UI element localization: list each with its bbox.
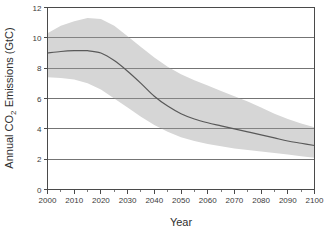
x-tick-label-2000: 2000: [39, 196, 57, 205]
x-tick-label-2030: 2030: [119, 196, 137, 205]
y-tick-label-6: 6: [37, 95, 42, 104]
y-axis-title-suffix: Emissions (GtC): [3, 27, 15, 110]
y-tick-label-0: 0: [37, 186, 42, 195]
y-tick-label-10: 10: [33, 34, 42, 43]
y-tick-label-12: 12: [33, 4, 42, 13]
x-tick-label-2070: 2070: [226, 196, 244, 205]
x-tick-label-2040: 2040: [145, 196, 163, 205]
x-tick-label-2010: 2010: [65, 196, 83, 205]
x-tick-label-2060: 2060: [199, 196, 217, 205]
x-tick-label-2080: 2080: [252, 196, 270, 205]
y-tick-label-8: 8: [37, 64, 42, 73]
y-axis-title-prefix: Annual CO: [3, 114, 15, 168]
y-tick-label-2: 2: [37, 155, 42, 164]
x-axis-title: Year: [170, 216, 193, 228]
y-tick-label-4: 4: [37, 125, 42, 134]
x-tick-label-2100: 2100: [306, 196, 324, 205]
x-tick-label-2020: 2020: [92, 196, 110, 205]
co2-emissions-chart: 024681012 200020102020203020402050206020…: [0, 0, 331, 237]
x-tick-label-2090: 2090: [279, 196, 297, 205]
chart-figure: 024681012 200020102020203020402050206020…: [0, 0, 331, 237]
x-tick-label-2050: 2050: [172, 196, 190, 205]
